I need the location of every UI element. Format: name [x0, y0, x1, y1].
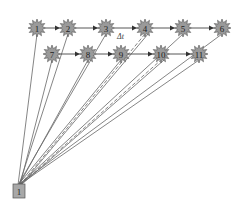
source-link-parallel-10: [21, 60, 164, 185]
node-4: 4: [136, 19, 154, 37]
node-label: 2: [66, 24, 71, 34]
node-3: 3: [97, 19, 115, 37]
node-label: 1: [35, 24, 40, 34]
node-9: 9: [112, 45, 130, 63]
source-node-label: 1: [17, 187, 22, 197]
node-label: 11: [195, 50, 204, 60]
node-label: 3: [104, 24, 109, 34]
node-label: 6: [220, 24, 225, 34]
node-5: 5: [174, 19, 192, 37]
source-link-to-1: [18, 34, 37, 185]
node-6: 6: [213, 19, 231, 37]
node-label: 5: [181, 24, 186, 34]
node-1: 1: [28, 19, 46, 37]
node-7: 7: [43, 45, 61, 63]
node-label: 4: [143, 24, 148, 34]
source-link-to-10: [20, 60, 161, 185]
source-link-to-9: [18, 60, 121, 185]
source-link-to-11: [19, 60, 199, 185]
node-label: 10: [157, 50, 167, 60]
source-node: 1: [13, 184, 25, 198]
diagram-canvas: 1234567891011 Δt 1: [0, 0, 245, 208]
node-8: 8: [79, 45, 97, 63]
node-11: 11: [190, 45, 208, 63]
node-label: 7: [50, 50, 55, 60]
delta-t-label: Δt: [116, 32, 125, 41]
node-label: 8: [86, 50, 91, 60]
node-label: 9: [119, 50, 124, 60]
node-2: 2: [59, 19, 77, 37]
